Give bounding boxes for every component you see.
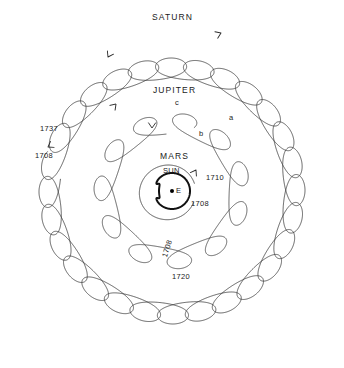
jupiter-label: JUPITER [153,86,196,95]
saturn-label: SATURN [152,13,193,22]
mars-label: MARS [160,152,189,161]
loop-mark-jupiter-loop-b: b [199,130,204,138]
year-mark-saturn-end: 1708 [35,152,53,160]
earth-label: E [176,187,181,195]
jupiter-direction-arrow-left [110,102,119,111]
year-mark-mars-end: 1708 [191,200,209,208]
direction-arrows-layer [46,30,222,176]
orbit-diagram: SATURN JUPITER MARS SUN E 17371708170817… [0,0,344,368]
year-mark-jupiter-end: 1720 [172,273,190,281]
earth-marker-dot [170,189,174,193]
orbit-canvas [0,0,344,368]
saturn-direction-arrow [215,30,222,38]
saturn-direction-arrow-loop [105,51,114,59]
loop-mark-jupiter-loop-a: a [229,114,234,122]
year-mark-saturn-start: 1737 [40,125,58,133]
loop-mark-jupiter-loop-c: c [175,99,179,107]
mars-direction-arrow [190,168,199,176]
year-mark-mars-start: 1710 [206,174,224,182]
sun-label: SUN [163,167,180,175]
jupiter-direction-arrow-loop [148,123,155,128]
